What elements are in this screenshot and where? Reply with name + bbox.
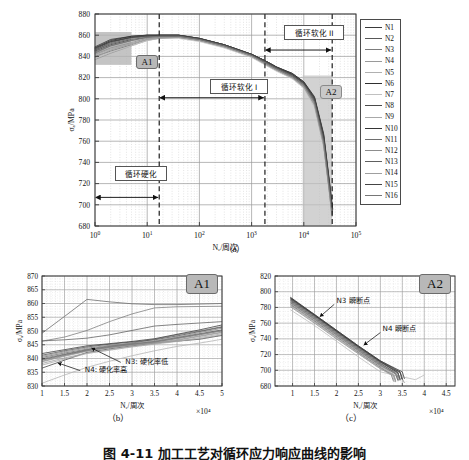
subcaption-c: （c） — [233, 411, 469, 424]
svg-text:104: 104 — [299, 230, 310, 240]
subplot-c-tag-a2-label: A2 — [427, 276, 443, 292]
legend-label-n12: N12 — [385, 147, 398, 154]
legend-swatch-n8 — [365, 105, 382, 106]
legend-item-n13[interactable]: N13 — [361, 156, 400, 167]
subcaption-c-label: （c） — [340, 413, 362, 423]
svg-text:3.5: 3.5 — [150, 390, 159, 398]
legend-item-n8[interactable]: N8 — [361, 100, 400, 111]
legend-item-n4[interactable]: N4 — [361, 56, 400, 67]
svg-text:845: 845 — [27, 341, 38, 349]
region-tag-a2: A2 — [320, 85, 342, 99]
svg-text:1.5: 1.5 — [310, 390, 319, 398]
legend-item-n6[interactable]: N6 — [361, 78, 400, 89]
region-tag-a1: A1 — [136, 55, 158, 69]
svg-text:2.5: 2.5 — [354, 390, 363, 398]
svg-text:103: 103 — [246, 230, 257, 240]
subplot-b-panel: 83083584084585085586086587011.522.533.54… — [0, 266, 236, 426]
series-legend: N1N2N3N4N5N6N7N8N9N10N11N12N13N14N15N16 — [360, 19, 401, 205]
legend-item-n7[interactable]: N7 — [361, 89, 400, 100]
svg-text:780: 780 — [79, 116, 91, 125]
svg-text:4: 4 — [175, 390, 179, 398]
legend-item-n5[interactable]: N5 — [361, 67, 400, 78]
legend-label-n2: N2 — [385, 35, 394, 42]
annotation-cyclic-softening-2-label: 循环软化 II — [295, 27, 334, 38]
legend-swatch-n12 — [365, 150, 382, 151]
svg-text:102: 102 — [194, 230, 205, 240]
svg-text:720: 720 — [260, 351, 271, 359]
svg-text:1: 1 — [40, 390, 44, 398]
svg-text:740: 740 — [79, 158, 91, 167]
svg-text:800: 800 — [79, 95, 91, 104]
svg-text:3: 3 — [130, 390, 134, 398]
subplot-b-tag-a1-label: A1 — [194, 276, 210, 292]
svg-text:860: 860 — [27, 300, 38, 308]
legend-label-n6: N6 — [385, 80, 394, 87]
svg-text:865: 865 — [27, 286, 38, 294]
legend-swatch-n2 — [365, 38, 382, 39]
legend-item-n2[interactable]: N2 — [361, 33, 400, 44]
svg-text:5: 5 — [220, 390, 224, 398]
svg-text:101: 101 — [142, 230, 153, 240]
svg-text:105: 105 — [351, 230, 362, 240]
subplot-c-tag-a2: A2 — [419, 274, 451, 294]
legend-label-n15: N15 — [385, 181, 398, 188]
svg-text:N4: 硬化率高: N4: 硬化率高 — [85, 365, 128, 374]
svg-text:855: 855 — [27, 314, 38, 322]
svg-text:820: 820 — [260, 273, 271, 281]
legend-item-n15[interactable]: N15 — [361, 179, 400, 190]
legend-item-n12[interactable]: N12 — [361, 145, 400, 156]
svg-text:850: 850 — [27, 328, 38, 336]
figure-caption: 图 4-11 加工工艺对循环应力响应曲线的影响 — [0, 443, 469, 460]
svg-text:840: 840 — [27, 355, 38, 363]
svg-text:1.5: 1.5 — [60, 390, 69, 398]
annotation-cyclic-softening-1: 循环软化 I — [210, 79, 268, 94]
svg-text:4.5: 4.5 — [442, 390, 451, 398]
legend-swatch-n13 — [365, 161, 382, 162]
legend-item-n10[interactable]: N10 — [361, 123, 400, 134]
legend-item-n14[interactable]: N14 — [361, 167, 400, 178]
svg-text:2: 2 — [85, 390, 89, 398]
legend-swatch-n6 — [365, 83, 382, 84]
region-tag-a2-label: A2 — [326, 87, 337, 97]
svg-text:2.5: 2.5 — [105, 390, 114, 398]
svg-text:880: 880 — [79, 10, 91, 19]
svg-text:740: 740 — [260, 335, 271, 343]
legend-item-n3[interactable]: N3 — [361, 44, 400, 55]
legend-label-n14: N14 — [385, 169, 398, 176]
svg-text:N4 瞬断点: N4 瞬断点 — [383, 324, 416, 333]
legend-item-n11[interactable]: N11 — [361, 134, 400, 145]
svg-text:680: 680 — [260, 383, 271, 391]
subplot-c-panel: 68070072074076078080082011.522.533.544.5… — [233, 266, 469, 426]
legend-label-n11: N11 — [385, 136, 397, 143]
main-chart-panel: 6807007207407607808008208408608801001011… — [0, 0, 469, 262]
svg-text:N3 瞬断点: N3 瞬断点 — [336, 296, 369, 305]
svg-text:4.5: 4.5 — [195, 390, 204, 398]
legend-item-n9[interactable]: N9 — [361, 112, 400, 123]
subcaption-a: （a） — [0, 242, 469, 255]
legend-label-n13: N13 — [385, 158, 398, 165]
svg-text:σₐ/MPa: σₐ/MPa — [248, 319, 257, 342]
svg-text:Nₑ/周次: Nₑ/周次 — [120, 401, 144, 410]
annotation-cyclic-softening-1-label: 循环软化 I — [221, 81, 258, 92]
legend-item-n16[interactable]: N16 — [361, 190, 400, 201]
svg-text:720: 720 — [79, 179, 91, 188]
legend-item-n1[interactable]: N1 — [361, 22, 400, 33]
legend-label-n1: N1 — [385, 24, 394, 31]
svg-text:870: 870 — [27, 273, 38, 281]
legend-swatch-n11 — [365, 139, 382, 140]
svg-text:N3: 硬化率低: N3: 硬化率低 — [125, 357, 168, 366]
legend-swatch-n15 — [365, 184, 382, 185]
legend-label-n5: N5 — [385, 69, 394, 76]
svg-text:3.5: 3.5 — [398, 390, 407, 398]
annotation-cyclic-hardening-label: 循环硬化 — [125, 168, 157, 179]
legend-label-n4: N4 — [385, 57, 394, 64]
legend-swatch-n9 — [365, 117, 382, 118]
svg-text:860: 860 — [79, 31, 91, 40]
svg-text:σₐ/MPa: σₐ/MPa — [67, 108, 76, 132]
svg-text:2: 2 — [335, 390, 339, 398]
figure-caption-label: 图 4-11 加工工艺对循环应力响应曲线的影响 — [103, 446, 366, 460]
subcaption-b: （b） — [0, 411, 236, 424]
svg-text:760: 760 — [260, 320, 271, 328]
region-tag-a1-label: A1 — [142, 57, 153, 67]
legend-label-n8: N8 — [385, 102, 394, 109]
